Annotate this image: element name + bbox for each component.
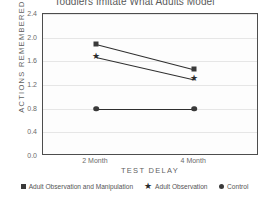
legend-item[interactable]: ★Adult Observation xyxy=(144,183,207,190)
chart-legend: Adult Observation and Manipulation★Adult… xyxy=(0,183,269,190)
x-tick-label: 2 Month xyxy=(82,157,107,164)
legend-label: Adult Observation and Manipulation xyxy=(29,183,133,190)
plot-area: ★★ xyxy=(42,13,258,155)
data-point-square-icon xyxy=(93,41,98,46)
y-tick-label: 1.6 xyxy=(11,57,37,64)
legend-item[interactable]: Adult Observation and Manipulation xyxy=(21,183,133,190)
gridline xyxy=(43,85,257,86)
legend-label: Adult Observation xyxy=(155,183,207,190)
x-axis-label: TEST DELAY xyxy=(42,166,258,175)
gridline xyxy=(43,38,257,39)
chart-figure: Toddlers Imitate What Adults Model ACTIO… xyxy=(0,0,269,201)
y-axis-label: ACTIONS REMEMBERED xyxy=(17,0,26,132)
legend-label: Control xyxy=(227,183,248,190)
legend-circle-icon xyxy=(219,184,225,190)
gridline xyxy=(43,132,257,133)
series-line xyxy=(96,57,195,81)
series-line xyxy=(96,109,194,110)
legend-square-icon xyxy=(21,184,26,189)
series-line xyxy=(96,44,195,71)
y-tick-label: 1.2 xyxy=(11,81,37,88)
data-point-star-icon: ★ xyxy=(190,74,198,83)
y-tick-label: 0.8 xyxy=(11,104,37,111)
legend-item[interactable]: Control xyxy=(219,183,249,190)
y-tick-label: 2.4 xyxy=(11,10,37,17)
y-tick-label: 0.4 xyxy=(11,128,37,135)
data-point-square-icon xyxy=(192,67,197,72)
x-tick-label: 4 Month xyxy=(181,157,206,164)
data-point-circle-icon xyxy=(191,106,197,112)
gridline xyxy=(43,61,257,62)
y-tick-label: 0.0 xyxy=(11,152,37,159)
gridline xyxy=(43,14,257,15)
y-tick-label: 2.0 xyxy=(11,33,37,40)
legend-star-icon: ★ xyxy=(144,183,152,190)
data-point-star-icon: ★ xyxy=(92,52,100,61)
data-point-circle-icon xyxy=(93,106,99,112)
chart-title: Toddlers Imitate What Adults Model xyxy=(0,0,269,7)
